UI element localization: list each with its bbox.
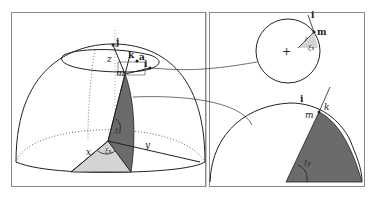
label-j-top: j [303,34,307,42]
diagram-canvas: j k a z m i x y ξz ξx + i m j ξx i k m ξ… [0,0,374,197]
label-y: y [144,140,151,150]
hemisphere: j k a z m i x y ξz ξx [16,30,257,172]
label-i: i [144,59,148,69]
top-view-circle: + i m j ξx [256,10,327,83]
label-xi-x: ξx [105,147,112,155]
label-xi-z: ξz [115,127,122,135]
label-z: z [106,54,112,64]
label-k-bottom: k [324,102,329,112]
label-i-top: i [311,10,315,20]
label-m-bottom: m [305,110,314,120]
label-m-top: m [317,27,327,37]
label-i-bottom: i [300,94,304,104]
label-xi-x-top: ξx [308,44,315,52]
label-center: + [282,45,291,58]
label-j: j [115,37,119,47]
label-m: m [116,68,125,78]
label-xi-y: ξy [304,159,311,167]
label-x: x [86,147,91,157]
label-k: k [128,50,135,60]
section-view: i k m ξy [210,87,362,182]
